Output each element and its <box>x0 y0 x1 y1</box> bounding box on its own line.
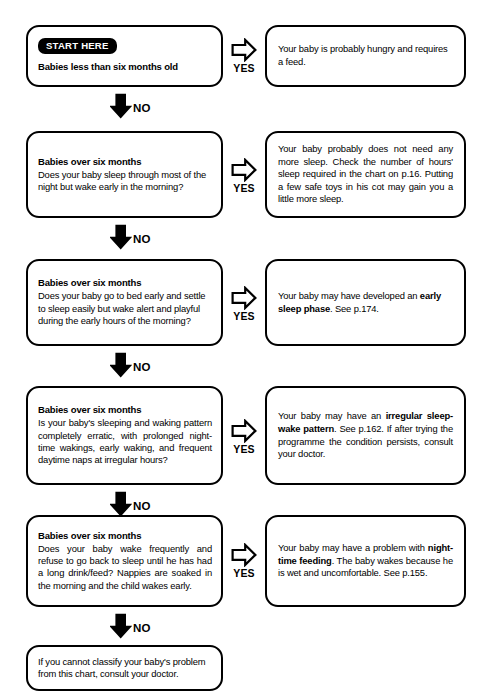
question-box-5: Babies over six monthsDoes your baby wak… <box>26 515 223 607</box>
question-body-2: Does your baby sleep through most of the… <box>38 169 212 194</box>
yes-branch-1: YES <box>222 38 266 74</box>
no-label-2: NO <box>133 233 150 245</box>
question-box-3: Babies over six monthsDoes your baby go … <box>26 259 223 346</box>
yes-label-5: YES <box>233 568 254 579</box>
no-branch-5: NO <box>110 613 150 639</box>
answer-box-3: Your baby may have developed an early sl… <box>265 259 466 346</box>
start-here-badge: START HERE <box>38 38 117 54</box>
answer-text-5: Your baby may have a problem with night-… <box>278 542 453 580</box>
final-advice-box: If you cannot classify your baby's probl… <box>26 645 223 691</box>
question-body-5: Does your baby wake frequently and refus… <box>38 543 212 593</box>
yes-branch-5: YES <box>222 543 266 579</box>
answer-text-1: Your baby is probably hungry and require… <box>278 43 453 68</box>
no-label-3: NO <box>133 361 150 373</box>
question-heading-4: Babies over six months <box>38 404 212 416</box>
question-heading-5: Babies over six months <box>38 530 212 542</box>
yes-label-2: YES <box>233 183 254 194</box>
arrow-right-outline-icon <box>231 419 257 443</box>
no-branch-3: NO <box>110 352 150 378</box>
yes-branch-2: YES <box>222 158 266 194</box>
arrow-down-solid-icon <box>110 613 132 639</box>
answer-box-1: Your baby is probably hungry and require… <box>265 25 466 87</box>
no-branch-4: NO <box>110 491 150 517</box>
answer-box-4: Your baby may have an irregular sleep-wa… <box>265 386 466 485</box>
no-label-4: NO <box>133 500 150 512</box>
arrow-down-solid-icon <box>110 224 132 250</box>
arrow-right-outline-icon <box>231 286 257 310</box>
arrow-right-outline-icon <box>231 543 257 567</box>
question-box-1: START HEREBabies less than six months ol… <box>26 25 223 87</box>
question-heading-1: Babies less than six months old <box>38 61 212 73</box>
yes-label-1: YES <box>233 63 254 74</box>
yes-label-3: YES <box>233 311 254 322</box>
answer-box-5: Your baby may have a problem with night-… <box>265 515 466 607</box>
answer-text-4: Your baby may have an irregular sleep-wa… <box>278 410 453 460</box>
arrow-right-outline-icon <box>231 158 257 182</box>
question-heading-3: Babies over six months <box>38 277 212 289</box>
question-body-4: Is your baby's sleeping and waking patte… <box>38 417 212 467</box>
answer-text-3: Your baby may have developed an early sl… <box>278 290 453 315</box>
no-label-1: NO <box>133 102 150 114</box>
answer-box-2: Your baby probably does not need any mor… <box>265 131 466 218</box>
answer-text-2: Your baby probably does not need any mor… <box>278 143 453 206</box>
question-heading-2: Babies over six months <box>38 156 212 168</box>
yes-label-4: YES <box>233 444 254 455</box>
arrow-down-solid-icon <box>110 352 132 378</box>
yes-branch-3: YES <box>222 286 266 322</box>
question-box-4: Babies over six monthsIs your baby's sle… <box>26 386 223 485</box>
arrow-down-solid-icon <box>110 491 132 517</box>
question-body-3: Does your baby go to bed early and settl… <box>38 290 212 327</box>
arrow-right-outline-icon <box>231 38 257 62</box>
arrow-down-solid-icon <box>110 93 132 119</box>
no-label-5: NO <box>133 622 150 634</box>
question-box-2: Babies over six monthsDoes your baby sle… <box>26 131 223 218</box>
flowchart-root: START HEREBabies less than six months ol… <box>0 0 486 699</box>
no-branch-1: NO <box>110 93 150 119</box>
no-branch-2: NO <box>110 224 150 250</box>
yes-branch-4: YES <box>222 419 266 455</box>
final-advice-text: If you cannot classify your baby's probl… <box>38 656 211 681</box>
